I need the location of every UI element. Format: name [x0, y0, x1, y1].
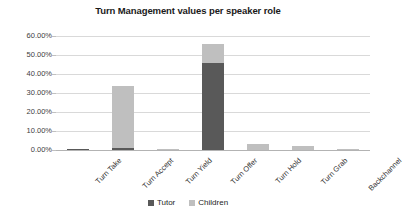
- y-axis-tick-label: 30.00%: [4, 89, 52, 97]
- legend-item[interactable]: Children: [189, 198, 228, 207]
- legend-item[interactable]: Tutor: [148, 198, 175, 207]
- y-axis-tick-label: 20.00%: [4, 108, 52, 116]
- x-axis-tick-label: Turn Take: [94, 156, 124, 186]
- chart-title: Turn Management values per speaker role: [0, 5, 376, 16]
- y-axis-tick-label: 0.00%: [4, 146, 52, 154]
- x-axis-tick-label: Backchannel: [366, 156, 403, 193]
- bar-segment[interactable]: [202, 63, 224, 150]
- chart-legend: TutorChildren: [0, 198, 376, 207]
- bar-group: [235, 36, 280, 150]
- legend-label: Children: [198, 198, 228, 207]
- bar-group: [56, 36, 101, 150]
- y-axis-tick-label: 60.00%: [4, 32, 52, 40]
- bar-group: [191, 36, 236, 150]
- bar-group: [146, 36, 191, 150]
- legend-swatch-icon: [148, 200, 154, 206]
- bar-group: [280, 36, 325, 150]
- bar-group: [101, 36, 146, 150]
- x-axis-tick-label: Turn Grab: [319, 156, 349, 186]
- legend-label: Tutor: [157, 198, 175, 207]
- bar-segment[interactable]: [112, 86, 134, 148]
- y-axis-tick-label: 50.00%: [4, 51, 52, 59]
- legend-swatch-icon: [189, 200, 195, 206]
- y-axis-tick-label: 40.00%: [4, 70, 52, 78]
- x-axis-tick-label: Turn Accept: [141, 156, 175, 190]
- x-axis-tick-label: Turn Offer: [229, 156, 259, 186]
- bar-segment[interactable]: [202, 44, 224, 62]
- y-axis-tick-label: 10.00%: [4, 127, 52, 135]
- x-axis-tick-label: Turn Yield: [184, 156, 214, 186]
- y-axis: 0.00%10.00%20.00%30.00%40.00%50.00%60.00…: [0, 36, 52, 150]
- x-axis-tick-label: Turn Hold: [273, 156, 302, 185]
- bar-group: [325, 36, 370, 150]
- bars-layer: [56, 36, 370, 150]
- x-axis: Turn TakeTurn AcceptTurn YieldTurn Offer…: [56, 150, 370, 198]
